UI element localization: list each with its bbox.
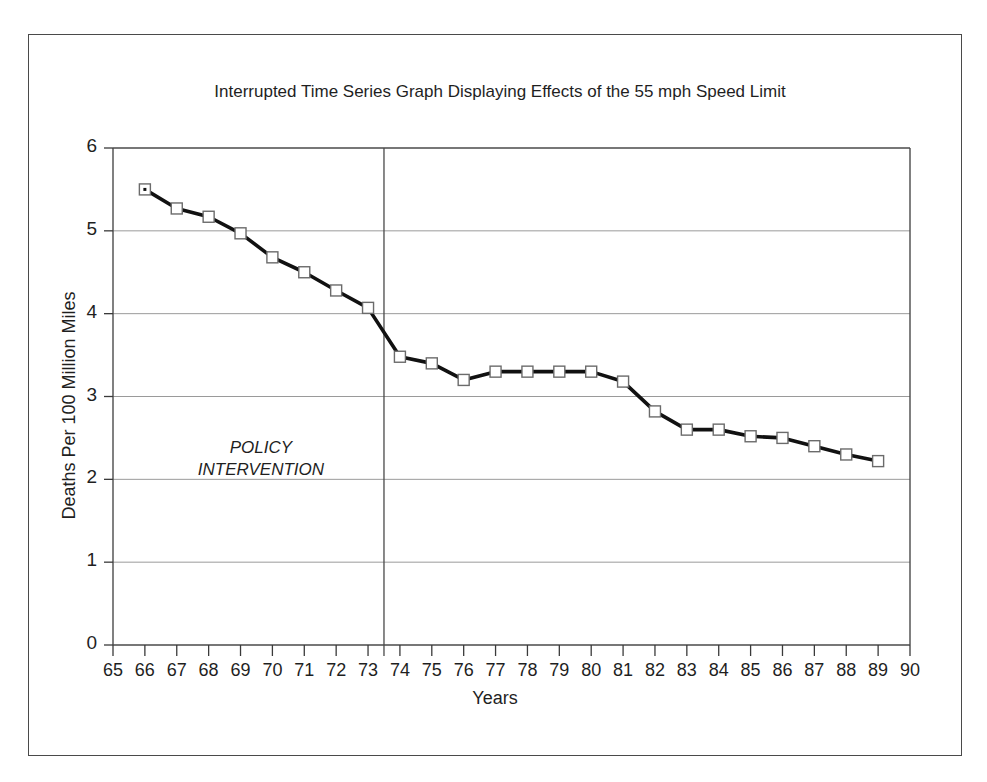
data-point-marker bbox=[841, 449, 852, 460]
data-point-marker bbox=[267, 252, 278, 263]
data-point-marker bbox=[490, 366, 501, 377]
data-point-marker bbox=[458, 374, 469, 385]
y-tick-label: 1 bbox=[63, 549, 97, 571]
y-tick-label: 6 bbox=[63, 135, 97, 157]
data-point-marker bbox=[203, 211, 214, 222]
data-point-marker bbox=[809, 441, 820, 452]
y-tick-label: 5 bbox=[63, 218, 97, 240]
data-point-marker bbox=[426, 358, 437, 369]
y-tick-label: 4 bbox=[63, 301, 97, 323]
data-point-marker bbox=[777, 432, 788, 443]
figure-container: Interrupted Time Series Graph Displaying… bbox=[0, 0, 987, 782]
data-point-marker bbox=[873, 456, 884, 467]
data-point-marker bbox=[649, 406, 660, 417]
data-point-marker bbox=[171, 203, 182, 214]
y-tick-label: 0 bbox=[63, 632, 97, 654]
data-point-marker bbox=[394, 351, 405, 362]
data-point-marker bbox=[586, 366, 597, 377]
data-point-marker bbox=[745, 431, 756, 442]
data-point-marker bbox=[681, 424, 692, 435]
data-point-marker bbox=[363, 302, 374, 313]
data-point-marker bbox=[235, 228, 246, 239]
policy-intervention-annotation: POLICY INTERVENTION bbox=[146, 437, 376, 481]
data-point-marker bbox=[522, 366, 533, 377]
data-point-marker bbox=[618, 376, 629, 387]
data-point-center bbox=[143, 188, 146, 191]
y-tick-label: 2 bbox=[63, 466, 97, 488]
data-point-marker bbox=[331, 285, 342, 296]
data-point-marker bbox=[554, 366, 565, 377]
data-point-marker bbox=[299, 267, 310, 278]
y-tick-label: 3 bbox=[63, 384, 97, 406]
x-axis-title: Years bbox=[355, 688, 635, 709]
data-series-line bbox=[145, 189, 878, 461]
x-tick-label: 90 bbox=[890, 660, 930, 681]
data-point-marker bbox=[713, 424, 724, 435]
